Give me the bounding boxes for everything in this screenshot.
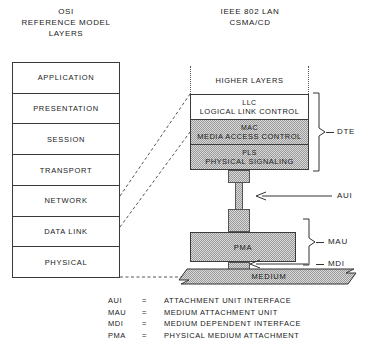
leader-line-network-to-llc xyxy=(120,94,190,196)
osi-layer-stack: APPLICATION PRESENTATION SESSION TRANSPO… xyxy=(12,62,120,278)
sublayer-abbr: LLC xyxy=(242,98,256,107)
sublayer-abbr: PLS xyxy=(242,148,257,157)
higher-layers-label: HIGHER LAYERS xyxy=(215,76,283,85)
legend-equals: = xyxy=(142,296,164,308)
dte-label: DTE xyxy=(337,127,355,136)
aui-arrow-icon xyxy=(256,190,332,202)
leader-line-datalink-to-pls xyxy=(120,132,190,227)
aui-cable xyxy=(235,183,243,209)
sublayer-abbr: MAC xyxy=(241,123,258,132)
osi-layer-label: APPLICATION xyxy=(38,73,95,82)
legend-expansion: MEDIUM ATTACHMENT UNIT xyxy=(164,308,301,320)
medium-bar: MEDIUM xyxy=(176,268,362,284)
legend-row-mdi: MDI = MEDIUM DEPENDENT INTERFACE xyxy=(108,319,301,331)
mdi-label: MDI xyxy=(328,259,345,268)
legend-expansion: MEDIUM DEPENDENT INTERFACE xyxy=(164,319,301,331)
sublayer-full-name: MEDIA ACCESS CONTROL xyxy=(197,132,302,141)
osi-title: OSI REFERENCE MODEL LAYERS xyxy=(6,6,126,39)
mdi-tick xyxy=(316,264,324,265)
aui-connector-bottom xyxy=(228,209,250,232)
mau-label: MAU xyxy=(328,237,348,246)
osi-layer-transport: TRANSPORT xyxy=(13,155,119,186)
osi-layer-data-link: DATA LINK xyxy=(13,217,119,248)
aui-connector-top xyxy=(228,170,250,183)
legend-equals: = xyxy=(142,308,164,320)
ieee-title: IEEE 802 LAN CSMA/CD xyxy=(190,6,310,28)
osi-layer-session: SESSION xyxy=(13,124,119,155)
medium-label: MEDIUM xyxy=(251,272,286,281)
aui-label: AUI xyxy=(337,191,352,200)
sublayer-llc: LLC LOGICAL LINK CONTROL xyxy=(191,95,308,120)
legend-abbr: PMA xyxy=(108,331,142,343)
legend-row-pma: PMA = PHYSICAL MEDIUM ATTACHMENT xyxy=(108,331,301,343)
sublayer-full-name: LOGICAL LINK CONTROL xyxy=(200,107,300,116)
pma-label: PMA xyxy=(234,243,253,252)
sublayer-pls: PLS PHYSICAL SIGNALING xyxy=(191,145,308,169)
osi-layer-label: SESSION xyxy=(47,135,85,144)
osi-layer-label: PHYSICAL xyxy=(45,258,88,267)
legend-expansion: PHYSICAL MEDIUM ATTACHMENT xyxy=(164,331,301,343)
dte-tick xyxy=(326,132,334,133)
ieee-sublayer-stack: LLC LOGICAL LINK CONTROL MAC MEDIA ACCES… xyxy=(190,94,309,170)
osi-layer-label: NETWORK xyxy=(44,196,87,205)
sublayer-full-name: PHYSICAL SIGNALING xyxy=(205,157,294,166)
legend-abbr: AUI xyxy=(108,296,142,308)
medium-label-wrap: MEDIUM xyxy=(176,268,362,284)
osi-layer-label: DATA LINK xyxy=(44,227,88,236)
osi-layer-label: TRANSPORT xyxy=(40,166,92,175)
osi-layer-network: NETWORK xyxy=(13,186,119,217)
legend-equals: = xyxy=(142,319,164,331)
osi-layer-application: APPLICATION xyxy=(13,63,119,94)
osi-layer-label: PRESENTATION xyxy=(33,104,99,113)
legend-row-aui: AUI = ATTACHMENT UNIT INTERFACE xyxy=(108,296,301,308)
legend-row-mau: MAU = MEDIUM ATTACHMENT UNIT xyxy=(108,308,301,320)
legend-equals: = xyxy=(142,331,164,343)
legend-abbr: MDI xyxy=(108,319,142,331)
higher-layers-box: HIGHER LAYERS xyxy=(190,66,309,94)
osi-layer-physical: PHYSICAL xyxy=(13,247,119,277)
legend: AUI = ATTACHMENT UNIT INTERFACE MAU = ME… xyxy=(108,296,376,342)
sublayer-mac: MAC MEDIA ACCESS CONTROL xyxy=(191,120,308,145)
legend-abbr: MAU xyxy=(108,308,142,320)
legend-table: AUI = ATTACHMENT UNIT INTERFACE MAU = ME… xyxy=(108,296,301,342)
mau-tick xyxy=(316,242,324,243)
osi-layer-presentation: PRESENTATION xyxy=(13,94,119,125)
legend-expansion: ATTACHMENT UNIT INTERFACE xyxy=(164,296,301,308)
